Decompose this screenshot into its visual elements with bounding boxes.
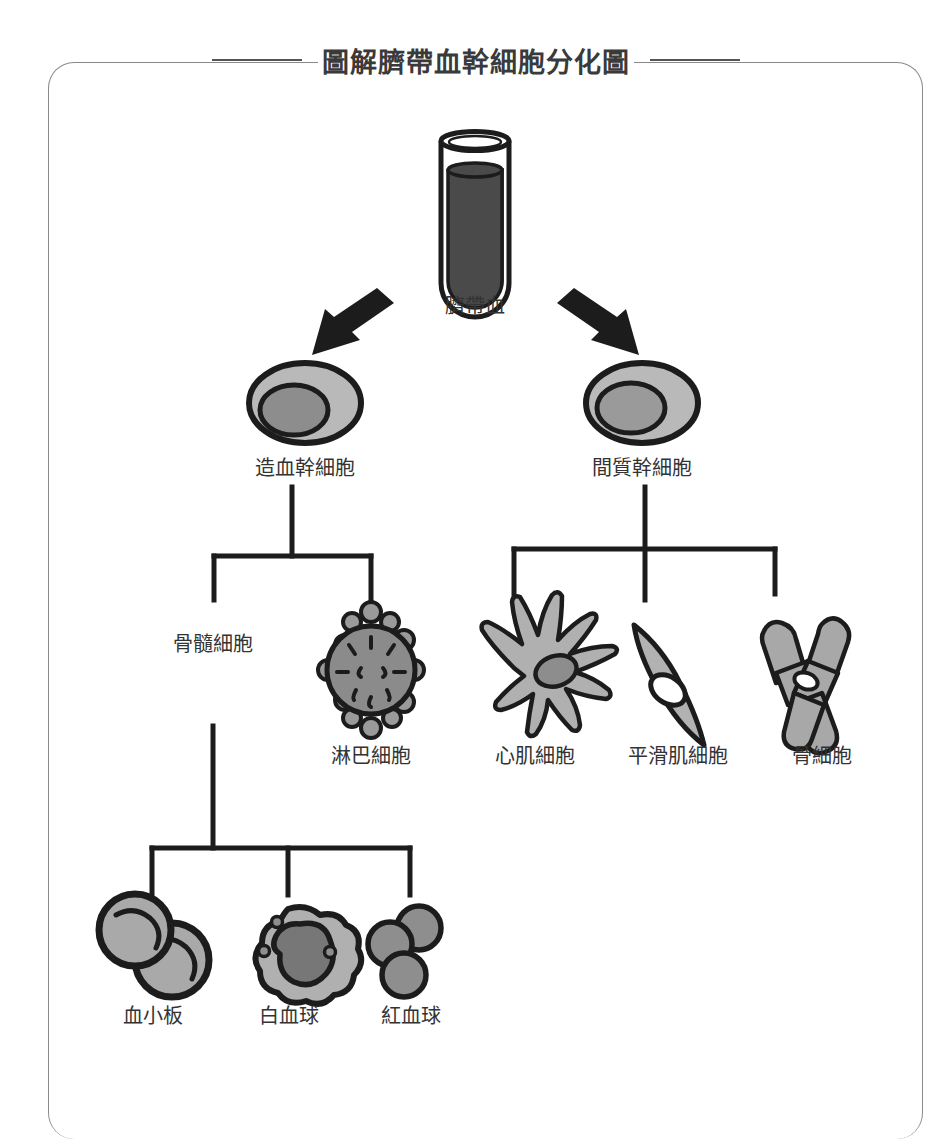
label-leukocyte: 白血球 — [224, 1000, 354, 1029]
stem-cell-icon-mesenchymal — [586, 363, 698, 443]
label-bone-cell: 骨細胞 — [757, 740, 887, 769]
label-smooth-muscle-cell: 平滑肌細胞 — [598, 740, 758, 769]
arrow-to-mesenchymal — [557, 288, 639, 355]
cardiomyocyte-icon — [482, 592, 617, 736]
connector-mesenchymal — [514, 487, 775, 600]
label-mesenchymal-stem-cell: 間質幹細胞 — [562, 452, 722, 481]
connector-hematopoietic — [214, 487, 371, 600]
label-lymphocyte: 淋巴細胞 — [306, 740, 436, 769]
platelet-icon — [99, 894, 209, 997]
label-platelet: 血小板 — [88, 1000, 218, 1029]
stem-cell-icon-hematopoietic — [249, 363, 361, 443]
arrow-to-hematopoietic — [312, 288, 394, 355]
label-erythrocyte: 紅血球 — [346, 1000, 476, 1029]
label-cardiomyocyte: 心肌細胞 — [470, 740, 600, 769]
label-hematopoietic-stem-cell: 造血幹細胞 — [225, 452, 385, 481]
diagram-artwork — [0, 0, 951, 1139]
bone-cell-icon — [762, 618, 849, 753]
label-cord-blood: 臍帶血 — [405, 290, 545, 319]
leukocyte-icon — [255, 907, 361, 1004]
smooth-muscle-icon — [634, 625, 704, 745]
erythrocyte-icon — [368, 906, 441, 997]
lymphocyte-icon — [318, 602, 424, 738]
label-myeloid-cell: 骨髓細胞 — [148, 628, 278, 657]
